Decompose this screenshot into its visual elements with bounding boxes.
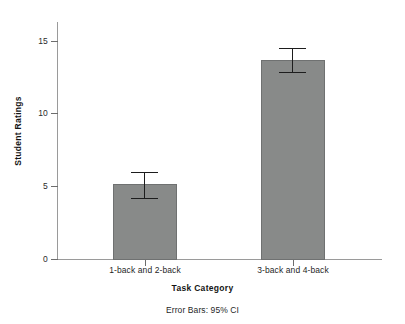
bar-1-back-and-2-back	[113, 184, 177, 260]
x-axis-title: Task Category	[0, 283, 405, 293]
error-bars-footnote: Error Bars: 95% CI	[0, 305, 405, 315]
y-tick-label-15: 15	[8, 37, 48, 46]
y-tick-label-10: 10	[8, 109, 48, 118]
y-tick-label-5: 5	[8, 182, 48, 191]
y-tick-mark-5	[51, 186, 58, 187]
error-bar-stem-1	[144, 172, 145, 198]
bar-chart-figure: Student Ratings 15 10 5 0 1-back and 2-b…	[0, 0, 405, 324]
x-category-label-2: 3-back and 4-back	[213, 266, 373, 275]
y-tick-mark-0	[51, 259, 58, 260]
y-axis-title-label: Student Ratings	[13, 96, 23, 166]
x-category-label-1: 1-back and 2-back	[65, 266, 225, 275]
bar-3-back-and-4-back	[261, 60, 325, 260]
y-tick-mark-10	[51, 113, 58, 114]
error-bar-lower-cap-1	[131, 198, 158, 199]
error-bar-lower-cap-2	[279, 72, 306, 73]
y-tick-mark-15	[51, 41, 58, 42]
y-axis-line	[57, 22, 58, 260]
error-bar-upper-cap-1	[131, 172, 158, 173]
error-bar-upper-cap-2	[279, 48, 306, 49]
x-axis-line	[57, 259, 382, 260]
error-bar-stem-2	[292, 48, 293, 72]
y-tick-label-0: 0	[8, 255, 48, 264]
